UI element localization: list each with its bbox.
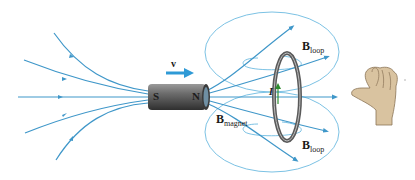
b-magnet-sub: magnet bbox=[224, 119, 248, 128]
b-magnet-label: Bmagnet bbox=[216, 112, 248, 127]
velocity-arrow bbox=[166, 68, 194, 78]
velocity-label: v bbox=[171, 58, 176, 69]
south-pole-label: S bbox=[153, 90, 159, 102]
north-pole-label: N bbox=[192, 90, 200, 102]
diagram-canvas bbox=[0, 0, 415, 180]
magnet-field-lines-left bbox=[18, 33, 148, 160]
b-loop-top-sub: loop bbox=[310, 46, 324, 55]
right-hand-icon bbox=[352, 67, 398, 125]
b-loop-bottom-label: Bloop bbox=[302, 138, 324, 153]
b-loop-top-label: Bloop bbox=[302, 39, 324, 54]
b-loop-bottom-sub: loop bbox=[310, 145, 324, 154]
b-loop-top-main: B bbox=[302, 39, 310, 53]
speck bbox=[404, 79, 405, 80]
b-loop-bottom-main: B bbox=[302, 138, 310, 152]
loop-field-bottom-outer bbox=[205, 92, 339, 172]
b-magnet-main: B bbox=[216, 112, 224, 126]
current-label: I bbox=[269, 86, 273, 97]
